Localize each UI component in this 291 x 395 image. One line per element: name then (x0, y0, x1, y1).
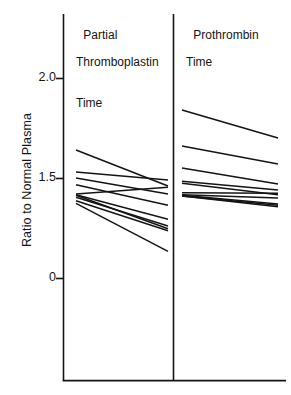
y-tick-label-2-0: 2.0 (22, 70, 56, 84)
slope-line (76, 172, 168, 180)
y-tick-label-1-5: 1.5 (22, 170, 56, 184)
slope-line (182, 193, 278, 194)
panel-title-line-1: Prothrombin (193, 28, 258, 42)
panel-title-line-1: Partial (83, 28, 117, 42)
panel-title-prothrombin-time: Prothrombin Time (180, 15, 259, 97)
slope-line (182, 146, 278, 164)
slope-line (182, 110, 278, 138)
panel-title-line-2: Time (180, 56, 259, 70)
chart-root: Ratio to Normal Plasma 2.0 1.5 0 Partial… (0, 0, 291, 395)
y-tick-label-0: 0 (22, 270, 56, 284)
y-axis-tick-marks (56, 79, 64, 279)
slope-line (76, 203, 168, 251)
panel-left-lines (76, 150, 168, 251)
panel-title-partial-thromboplastin-time: Partial Thromboplastin Time (70, 15, 159, 137)
panel-title-line-2: Thromboplastin (70, 56, 159, 70)
slope-line (182, 168, 278, 184)
panel-title-line-3: Time (70, 97, 159, 111)
panel-right-lines (182, 110, 278, 207)
